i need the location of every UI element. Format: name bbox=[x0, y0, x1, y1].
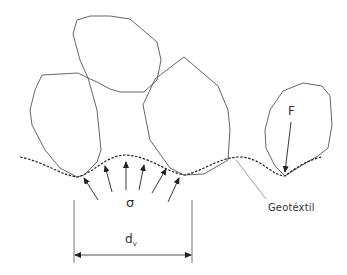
stress-label: σ bbox=[126, 195, 134, 210]
left-stone bbox=[30, 73, 101, 177]
force-label: F bbox=[288, 104, 295, 118]
diameter-main: d bbox=[125, 232, 133, 246]
stress-arrow-2 bbox=[105, 166, 112, 192]
stress-arrow-5 bbox=[152, 169, 166, 193]
geotextile-label: Geotéxtil bbox=[268, 201, 315, 214]
force-arrow bbox=[285, 122, 291, 172]
stress-arrow-4 bbox=[139, 165, 144, 190]
top-stone bbox=[73, 16, 161, 92]
geotextile-curve bbox=[20, 155, 322, 177]
stress-arrow-6 bbox=[168, 178, 179, 202]
diameter-subscript: v bbox=[133, 240, 137, 248]
diagram-drawing bbox=[0, 0, 347, 275]
diameter-label: dv bbox=[125, 232, 137, 248]
right-stone bbox=[143, 57, 230, 175]
geotextile-leader-line bbox=[236, 160, 266, 199]
small-stone bbox=[265, 83, 332, 176]
geotextile-diagram: σ F dv Geotéxtil bbox=[0, 0, 347, 275]
stress-arrow-1 bbox=[84, 178, 98, 200]
